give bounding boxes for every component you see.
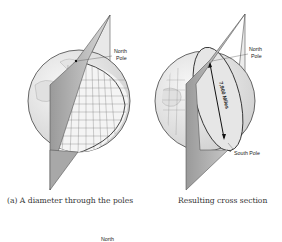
- bottom-partial-label: North: [101, 236, 114, 242]
- left-plane-bottom: [50, 150, 78, 190]
- left-north-label-line1: North: [114, 48, 127, 54]
- right-caption: Resulting cross section: [178, 196, 267, 205]
- left-north-pole-dot: [75, 60, 77, 62]
- right-north-label-line1: North: [249, 46, 262, 52]
- right-north-label-line2: Pole: [251, 53, 262, 59]
- diagram-canvas: North Pole: [0, 0, 282, 242]
- left-caption: (a) A diameter through the poles: [7, 196, 133, 205]
- left-globe: North Pole: [28, 15, 130, 190]
- figure: North Pole: [0, 0, 282, 242]
- left-north-label-line2: Pole: [116, 55, 127, 61]
- right-globe: 7,900 Miles North Pole South Pole: [155, 14, 262, 190]
- south-pole-label: South Pole: [234, 150, 260, 156]
